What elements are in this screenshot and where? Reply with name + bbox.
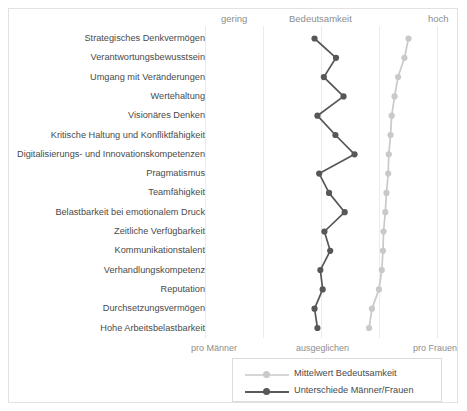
data-point [321,74,327,80]
data-point [379,267,385,273]
series-line [369,39,408,329]
data-point [391,93,397,99]
data-point [383,190,389,196]
data-point [385,171,391,177]
bottom-axis-center-label: ausgeglichen [296,343,349,353]
data-point [317,267,323,273]
data-point [369,306,375,312]
data-point [342,209,348,215]
data-point [327,248,333,254]
legend-label-mittelwert: Mittelwert Bedeutsamkeit [294,368,397,378]
data-point [314,325,320,331]
chart-legend: Mittelwert Bedeutsamkeit Unterschiede Mä… [232,358,442,402]
data-point [387,132,393,138]
data-point [314,113,320,119]
legend-marker-unterschiede [263,388,270,395]
data-point [376,286,382,292]
data-point [311,35,317,41]
bottom-axis-max-label: pro Frauen [413,343,457,353]
series-line [315,39,355,329]
data-point [321,228,327,234]
data-point [395,74,401,80]
data-point [386,151,392,157]
data-point [380,228,386,234]
legend-label-unterschiede: Unterschiede Männer/Frauen [294,385,414,395]
data-point [316,171,322,177]
data-point [351,151,357,157]
data-point [382,209,388,215]
data-point [401,55,407,61]
data-point [320,286,326,292]
legend-marker-mittelwert [263,371,270,378]
data-point [311,306,317,312]
data-point [332,132,338,138]
data-point [366,325,372,331]
data-point [380,248,386,254]
data-point [326,190,332,196]
data-point [405,35,411,41]
data-point [333,55,339,61]
bottom-axis-min-label: pro Männer [191,343,237,353]
data-point [389,113,395,119]
data-point [340,93,346,99]
